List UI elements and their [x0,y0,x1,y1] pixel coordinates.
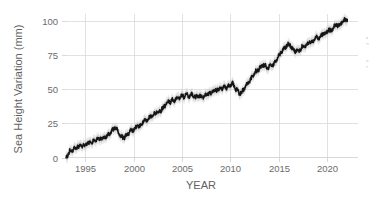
x-tick-label-2015: 2015 [269,163,290,174]
sea-level-chart: 199520002005201020152020 0255075100 YEAR… [0,0,371,203]
y-tick-label-75: 75 [47,50,58,61]
x-tick-label-2005: 2005 [172,163,193,174]
y-axis-title: Sea Height Variation (mm) [12,25,24,154]
x-tick-label-2020: 2020 [317,163,338,174]
y-tick-label-50: 50 [47,84,58,95]
y-tick-label-100: 100 [42,16,58,27]
chart-canvas: 199520002005201020152020 0255075100 YEAR… [0,0,371,203]
x-tick-label-2010: 2010 [220,163,241,174]
x-tick-label-2000: 2000 [124,163,145,174]
x-tick-label-1995: 1995 [75,163,96,174]
x-axis-title: YEAR [186,179,216,191]
y-tick-label-25: 25 [47,118,58,129]
y-tick-label-0: 0 [53,153,58,164]
